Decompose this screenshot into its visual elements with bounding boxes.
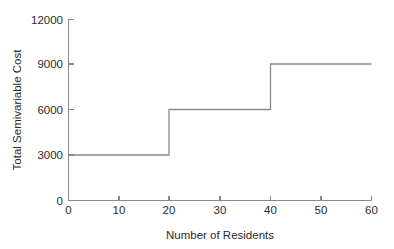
x-tick-label-50: 50: [315, 204, 328, 216]
x-tick-label-20: 20: [163, 204, 176, 216]
x-tick-label-10: 10: [113, 204, 126, 216]
x-axis-title: Number of Residents: [166, 229, 274, 241]
y-tick-label-12000: 12000: [31, 14, 63, 26]
chart-background: [0, 0, 394, 249]
y-tick-label-6000: 6000: [37, 104, 63, 116]
x-tick-label-30: 30: [214, 204, 227, 216]
x-tick-label-60: 60: [365, 204, 378, 216]
step-chart: 12000 9000 6000 3000 0 0 10 20 30 40 50 …: [0, 0, 394, 249]
y-tick-label-9000: 9000: [37, 58, 63, 70]
y-tick-label-0: 0: [57, 195, 63, 207]
x-tick-label-0: 0: [65, 204, 71, 216]
y-tick-label-3000: 3000: [37, 149, 63, 161]
x-tick-label-40: 40: [264, 204, 277, 216]
y-axis-title: Total Semivariable Cost: [11, 49, 23, 171]
chart-container: 12000 9000 6000 3000 0 0 10 20 30 40 50 …: [0, 0, 394, 249]
